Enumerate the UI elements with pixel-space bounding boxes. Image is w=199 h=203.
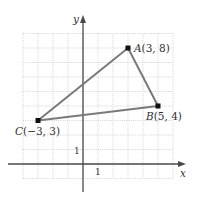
x-tick-label: 1	[95, 167, 101, 177]
y-axis-label: y	[72, 13, 80, 25]
vertex-C	[36, 118, 41, 123]
vertex-label-C: C(−3, 3)	[15, 125, 60, 137]
axes: x y 1 1	[8, 13, 186, 192]
y-axis-arrow-icon	[80, 15, 86, 23]
vertex-B	[156, 104, 161, 109]
y-tick-label: 1	[74, 146, 80, 156]
vertex-label-A: A(3, 8)	[133, 42, 170, 54]
edge-BC	[38, 106, 158, 121]
coordinate-plane: x y 1 1 A(3, 8)B(5, 4)C(−3, 3)	[0, 0, 199, 203]
vertex-label-B: B(5, 4)	[145, 110, 182, 122]
x-axis-label: x	[180, 167, 186, 179]
triangle-vertices: A(3, 8)B(5, 4)C(−3, 3)	[15, 42, 182, 137]
vertex-A	[126, 46, 131, 51]
